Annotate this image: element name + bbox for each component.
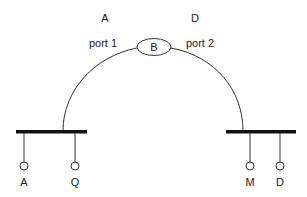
left-arc-connector [63,48,137,131]
port-1-label: port 1 [89,37,117,49]
left-terminal-label-q: Q [71,176,80,188]
left-bus: A Q [16,130,87,188]
port-2-label: port 2 [186,37,214,49]
right-bus-bar [226,130,296,134]
left-bus-bar [16,130,87,134]
right-terminal-node-d [276,162,284,170]
center-node-b[interactable]: B [137,39,171,56]
right-terminal-node-m [246,162,254,170]
right-terminal-label-d: D [276,176,284,188]
top-label-right: D [191,12,199,24]
network-diagram: A D port 1 port 2 B A Q M D [0,0,307,197]
top-label-left: A [101,12,109,24]
right-bus: M D [226,130,296,188]
left-terminal-node-a [20,162,28,170]
left-terminal-label-a: A [20,176,28,188]
left-terminal-node-q [71,162,79,170]
right-terminal-label-m: M [245,176,254,188]
right-arc-connector [171,48,243,131]
center-node-label: B [150,41,157,53]
